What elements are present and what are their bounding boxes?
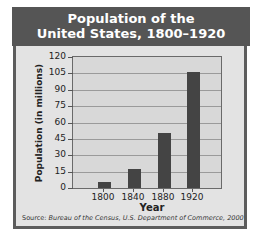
y-tick (68, 73, 73, 74)
bar-1920 (187, 72, 200, 188)
y-tick (68, 188, 73, 189)
y-tick-label: 15 (42, 166, 66, 176)
bar-1880 (158, 133, 171, 188)
y-tick-label: 75 (42, 100, 66, 110)
y-tick (68, 139, 73, 140)
y-tick (68, 172, 73, 173)
y-tick-label: 45 (42, 133, 66, 143)
x-tick-label: 1800 (88, 192, 118, 202)
plot-area (72, 56, 222, 189)
y-tick-label: 0 (42, 182, 66, 192)
bar-1840 (128, 169, 141, 188)
chart-title: Population of the United States, 1800–19… (12, 7, 250, 46)
y-tick-label: 105 (42, 67, 66, 77)
x-tick-label: 1880 (148, 192, 178, 202)
x-tick-label: 1920 (177, 192, 207, 202)
y-tick (68, 57, 73, 58)
y-tick (68, 123, 73, 124)
source-text: Bureau of the Census, U.S. Department of… (49, 214, 244, 222)
y-tick (68, 106, 73, 107)
y-tick-label: 120 (42, 51, 66, 61)
y-tick-label: 90 (42, 84, 66, 94)
source-note: Source: Bureau of the Census, U.S. Depar… (22, 214, 244, 222)
x-axis-title: Year (132, 202, 172, 213)
chart-title-line-2: United States, 1800–1920 (12, 26, 250, 41)
y-tick-label: 30 (42, 149, 66, 159)
y-tick (68, 90, 73, 91)
x-tick-label: 1840 (118, 192, 148, 202)
bar-1800 (98, 182, 111, 188)
y-tick-label: 60 (42, 117, 66, 127)
chart-title-line-1: Population of the (12, 11, 250, 26)
y-tick (68, 155, 73, 156)
